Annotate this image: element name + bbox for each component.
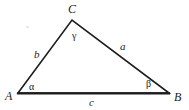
angle-label-beta: β (146, 79, 151, 89)
vertex-label-a: A (5, 90, 13, 102)
side-label-c: c (89, 97, 94, 108)
triangle-diagram: A B C a b c α β γ (0, 0, 189, 110)
side-label-a: a (120, 41, 126, 52)
side-label-b: b (34, 49, 40, 60)
triangle-shape (0, 0, 189, 110)
scan-artifact-speck (26, 26, 29, 28)
vertex-label-c: C (68, 3, 76, 15)
vertex-label-b: B (174, 91, 182, 103)
angle-label-alpha: α (29, 82, 34, 92)
angle-label-gamma: γ (72, 31, 76, 41)
